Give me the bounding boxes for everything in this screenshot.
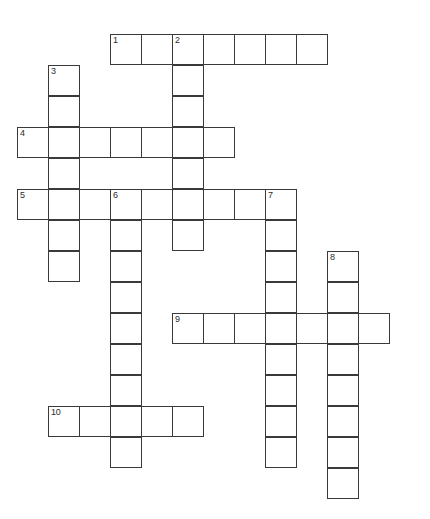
crossword-cell[interactable]: 7	[265, 189, 297, 220]
crossword-cell[interactable]	[234, 34, 266, 65]
crossword-cell[interactable]	[48, 96, 80, 127]
cell-letter	[142, 35, 172, 64]
crossword-cell[interactable]	[110, 375, 142, 406]
crossword-cell[interactable]	[110, 406, 142, 437]
crossword-cell[interactable]	[203, 127, 235, 158]
crossword-cell[interactable]	[265, 375, 297, 406]
crossword-cell[interactable]	[172, 158, 204, 189]
crossword-cell[interactable]	[265, 220, 297, 251]
cell-letter	[111, 407, 141, 436]
cell-letter	[297, 35, 327, 64]
crossword-cell[interactable]: 10	[48, 406, 80, 437]
cell-letter	[49, 252, 79, 281]
crossword-cell[interactable]	[48, 127, 80, 158]
crossword-cell[interactable]	[110, 282, 142, 313]
cell-letter	[49, 97, 79, 126]
cell-letter	[111, 128, 141, 157]
cell-letter	[266, 35, 296, 64]
crossword-cell[interactable]	[234, 313, 266, 344]
crossword-cell[interactable]	[110, 344, 142, 375]
crossword-cell[interactable]: 6	[110, 189, 142, 220]
clue-number-5: 5	[20, 190, 25, 200]
cell-letter	[111, 345, 141, 374]
crossword-cell[interactable]	[358, 313, 390, 344]
clue-number-6: 6	[113, 190, 118, 200]
clue-number-2: 2	[175, 35, 180, 45]
crossword-cell[interactable]: 9	[172, 313, 204, 344]
crossword-cell[interactable]	[203, 313, 235, 344]
cell-letter	[111, 314, 141, 343]
crossword-cell[interactable]	[327, 313, 359, 344]
crossword-cell[interactable]: 1	[110, 34, 142, 65]
crossword-cell[interactable]	[141, 34, 173, 65]
crossword-cell[interactable]	[110, 127, 142, 158]
crossword-cell[interactable]	[265, 282, 297, 313]
cell-letter	[266, 283, 296, 312]
cell-letter	[328, 407, 358, 436]
crossword-cell[interactable]	[234, 189, 266, 220]
crossword-cell[interactable]	[265, 344, 297, 375]
crossword-cell[interactable]	[327, 375, 359, 406]
cell-letter	[266, 345, 296, 374]
cell-letter	[173, 97, 203, 126]
crossword-cell[interactable]	[110, 220, 142, 251]
crossword-cell[interactable]	[110, 251, 142, 282]
crossword-cell[interactable]: 2	[172, 34, 204, 65]
crossword-cell[interactable]	[265, 251, 297, 282]
crossword-cell[interactable]: 5	[17, 189, 49, 220]
cell-letter	[328, 283, 358, 312]
cell-letter	[111, 221, 141, 250]
crossword-cell[interactable]	[172, 189, 204, 220]
crossword-cell[interactable]	[203, 189, 235, 220]
crossword-cell[interactable]	[203, 34, 235, 65]
crossword-cell[interactable]	[172, 127, 204, 158]
cell-letter	[142, 128, 172, 157]
crossword-cell[interactable]	[48, 251, 80, 282]
crossword-cell[interactable]: 3	[48, 65, 80, 96]
clue-number-8: 8	[330, 252, 335, 262]
cell-letter	[80, 128, 110, 157]
crossword-cell[interactable]: 8	[327, 251, 359, 282]
crossword-cell[interactable]	[172, 220, 204, 251]
cell-letter	[328, 438, 358, 467]
crossword-cell[interactable]	[141, 127, 173, 158]
cell-letter	[328, 376, 358, 405]
cell-letter	[142, 407, 172, 436]
cell-letter	[49, 221, 79, 250]
clue-number-4: 4	[20, 128, 25, 138]
crossword-cell[interactable]	[172, 96, 204, 127]
crossword-cell[interactable]	[141, 189, 173, 220]
crossword-cell[interactable]	[48, 189, 80, 220]
crossword-cell[interactable]	[79, 127, 111, 158]
crossword-cell[interactable]	[79, 406, 111, 437]
crossword-cell[interactable]	[296, 34, 328, 65]
crossword-cell[interactable]	[48, 158, 80, 189]
crossword-cell[interactable]	[172, 65, 204, 96]
crossword-cell[interactable]	[141, 406, 173, 437]
cell-letter	[49, 128, 79, 157]
crossword-cell[interactable]	[327, 437, 359, 468]
clue-number-7: 7	[268, 190, 273, 200]
crossword-cell[interactable]	[48, 220, 80, 251]
crossword-cell[interactable]: 4	[17, 127, 49, 158]
crossword-cell[interactable]	[327, 282, 359, 313]
crossword-cell[interactable]	[327, 344, 359, 375]
cell-letter	[266, 221, 296, 250]
crossword-cell[interactable]	[265, 406, 297, 437]
crossword-cell[interactable]	[172, 406, 204, 437]
cell-letter	[328, 469, 358, 498]
crossword-cell[interactable]	[265, 34, 297, 65]
crossword-cell[interactable]	[296, 313, 328, 344]
cell-letter	[235, 314, 265, 343]
crossword-cell[interactable]	[79, 189, 111, 220]
crossword-cell[interactable]	[110, 437, 142, 468]
cell-letter	[266, 252, 296, 281]
crossword-cell[interactable]	[110, 313, 142, 344]
crossword-cell[interactable]	[265, 437, 297, 468]
cell-letter	[266, 376, 296, 405]
cell-letter	[328, 314, 358, 343]
crossword-cell[interactable]	[327, 406, 359, 437]
crossword-cell[interactable]	[265, 313, 297, 344]
crossword-cell[interactable]	[327, 468, 359, 499]
cell-letter	[111, 283, 141, 312]
